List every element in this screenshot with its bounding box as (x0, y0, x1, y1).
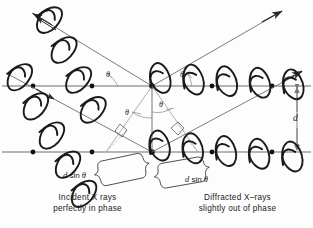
sin-text-left: sin (69, 171, 79, 180)
theta-symbol-left: θ (82, 170, 86, 180)
caption-incident-line2: perfectly in phase (30, 203, 145, 214)
caption-diffracted-line1: Diffracted X–rays (175, 192, 300, 203)
caption-incident-line1: Incident X rays (30, 192, 145, 203)
bragg-diffraction-figure: θ θ θ θ d d sin θ d sin θ Incident X ray… (0, 0, 313, 228)
theta-symbol-right: θ (204, 174, 208, 184)
lattice-atom (270, 150, 275, 155)
caption-incident: Incident X rays perfectly in phase (30, 192, 145, 214)
angle-arc-diffracted-lower (152, 108, 174, 113)
caption-diffracted: Diffracted X–rays slightly out of phase (175, 192, 300, 214)
brace-path-difference-left (92, 151, 152, 187)
path-difference-label-left: d sin θ (63, 170, 86, 180)
angle-label-diffracted-upper: θ (180, 70, 184, 79)
lattice-atom (90, 150, 95, 155)
angle-arc-incident-lower (132, 112, 152, 118)
caption-diffracted-line2: slightly out of phase (175, 203, 300, 214)
diffracted-ray-upper-arrowhead (262, 11, 282, 22)
sin-text-right: sin (191, 175, 201, 184)
interplanar-spacing-label: d (293, 113, 298, 123)
lattice-atom (210, 84, 215, 89)
angle-label-incident-lower: θ (125, 108, 129, 117)
lattice-plane-top (2, 83, 311, 89)
angle-label-diffracted-lower: θ (159, 100, 163, 109)
path-difference-label-right: d sin θ (185, 174, 208, 184)
bragg-triangle-construction (106, 86, 198, 152)
lattice-atom (31, 150, 36, 155)
angle-label-incident-upper: θ (106, 70, 110, 79)
lattice-atom (210, 150, 215, 155)
diffracted-ray-lower-axis (152, 72, 302, 152)
lattice-atom (90, 84, 95, 89)
incident-ray-lower-axis (6, 73, 152, 152)
